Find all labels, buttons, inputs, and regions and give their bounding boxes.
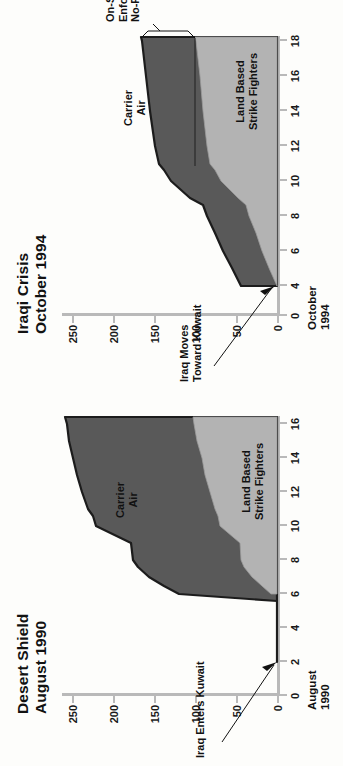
x-tick-label-6: 6: [289, 591, 301, 597]
x-tick-4: [280, 626, 287, 628]
x-axis-title-line1: October: [306, 286, 319, 330]
x-tick-label-0: 0: [289, 693, 301, 699]
annotation-iraq-moves-toward-kuwait: Iraq Moves Toward Kuwait: [178, 305, 203, 382]
x-axis-title-line2: 1990: [319, 670, 332, 710]
chart-panel-iraqi-crisis: Iraqi Crisis October 1994 0 50 100 150 2…: [0, 6, 343, 378]
x-tick-label-0: 0: [289, 313, 301, 319]
x-tick-label-12: 12: [289, 486, 301, 498]
annotation-no-fly-zone-text: On-Station Enforcing No-Fly Zone: [104, 0, 142, 22]
x-tick-10: [280, 179, 287, 181]
x-tick-6: [280, 249, 287, 251]
y-tick-label-200: 200: [108, 325, 120, 343]
x-tick-4: [280, 284, 287, 286]
x-tick-label-6: 6: [289, 248, 301, 254]
x-tick-label-2: 2: [289, 659, 301, 665]
panel-title-line1: Desert Shield: [14, 614, 32, 714]
x-tick-16: [280, 422, 287, 424]
x-tick-14: [280, 109, 287, 111]
y-tick-200: [113, 316, 115, 323]
y-tick-150: [154, 696, 156, 703]
x-tick-label-4: 4: [289, 283, 301, 289]
annotation-line1: Iraq Moves: [178, 305, 191, 382]
x-tick-12: [280, 490, 287, 492]
x-tick-8: [280, 214, 287, 216]
y-tick-label-150: 150: [149, 705, 161, 723]
x-tick-12: [280, 144, 287, 146]
y-tick-50: [236, 696, 238, 703]
x-tick-label-18: 18: [289, 35, 301, 47]
y-tick-label-50: 50: [231, 705, 243, 717]
y-tick-200: [113, 696, 115, 703]
x-tick-8: [280, 558, 287, 560]
x-tick-18: [280, 39, 287, 41]
x-tick-10: [280, 524, 287, 526]
panel-title-line1: Iraqi Crisis: [14, 235, 32, 334]
panel-title-desert-shield: Desert Shield August 1990: [14, 614, 50, 714]
y-tick-label-200: 200: [108, 705, 120, 723]
y-tick-50: [236, 316, 238, 323]
y-tick-label-250: 250: [67, 325, 79, 343]
x-axis-title-line2: 1994: [319, 286, 332, 330]
panel-title-line2: August 1990: [32, 614, 50, 714]
panel-title-iraqi-crisis: Iraqi Crisis October 1994: [14, 235, 50, 334]
x-tick-0: [280, 314, 287, 316]
x-tick-label-10: 10: [289, 520, 301, 532]
y-tick-label-250: 250: [67, 705, 79, 723]
x-tick-label-4: 4: [289, 625, 301, 631]
panel-title-line2: October 1994: [32, 235, 50, 334]
x-tick-label-12: 12: [289, 140, 301, 152]
y-tick-0: [277, 316, 279, 323]
x-tick-6: [280, 592, 287, 594]
bracket-annotation-line3: No-Fly Zone: [129, 0, 142, 22]
y-tick-150: [154, 316, 156, 323]
x-tick-14: [280, 456, 287, 458]
y-tick-label-0: 0: [272, 325, 284, 331]
bracket-annotation-line2: Enforcing: [117, 0, 130, 22]
x-axis-title-line1: August: [306, 670, 319, 710]
x-tick-2: [280, 660, 287, 662]
figure-page: Desert Shield August 1990 0 50 100 150 2…: [0, 0, 343, 766]
rotated-figure-canvas: Desert Shield August 1990 0 50 100 150 2…: [0, 0, 343, 766]
x-tick-label-14: 14: [289, 105, 301, 117]
x-tick-label-10: 10: [289, 175, 301, 187]
y-tick-250: [72, 696, 74, 703]
annotation-line1: Iraq Enters Kuwait: [194, 661, 207, 758]
x-tick-label-16: 16: [289, 70, 301, 82]
annotation-leader-iraq-enters-kuwait: [62, 416, 280, 696]
x-axis-title-october-1994: October 1994: [306, 286, 332, 330]
annotation-bracket-no-fly-zone: [62, 16, 280, 316]
y-tick-label-0: 0: [272, 705, 284, 711]
bracket-annotation-line1: On-Station: [104, 0, 117, 22]
x-tick-0: [280, 694, 287, 696]
y-tick-0: [277, 696, 279, 703]
annotation-iraq-enters-kuwait: Iraq Enters Kuwait: [194, 661, 207, 758]
y-tick-label-150: 150: [149, 325, 161, 343]
x-axis-title-august-1990: August 1990: [306, 670, 332, 710]
x-tick-label-14: 14: [289, 452, 301, 464]
x-tick-label-8: 8: [289, 557, 301, 563]
annotation-line2: Toward Kuwait: [191, 305, 204, 382]
x-tick-label-16: 16: [289, 418, 301, 430]
y-tick-250: [72, 316, 74, 323]
plot-area-desert-shield: 0 50 100 150 200 250 0 2 4 6: [62, 416, 280, 696]
chart-panel-desert-shield: Desert Shield August 1990 0 50 100 150 2…: [0, 386, 343, 758]
x-tick-16: [280, 74, 287, 76]
x-tick-label-8: 8: [289, 213, 301, 219]
plot-area-iraqi-crisis: 0 50 100 150 200 250 0 4 6 8: [62, 36, 280, 316]
